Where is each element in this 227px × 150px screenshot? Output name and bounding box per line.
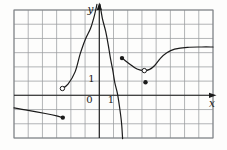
open-point-2 bbox=[142, 68, 146, 72]
open-point-1 bbox=[60, 86, 64, 90]
x-tick-label-1: 1 bbox=[108, 95, 114, 105]
y-axis-label: y bbox=[88, 3, 94, 14]
function-graph-figure: y x 0 1 1 bbox=[0, 0, 227, 150]
graph-canvas bbox=[0, 0, 227, 150]
closed-point-3 bbox=[143, 80, 147, 84]
x-axis-label: x bbox=[209, 98, 215, 109]
y-tick-label-1: 1 bbox=[88, 74, 94, 84]
closed-point-2 bbox=[120, 56, 124, 60]
origin-label: 0 bbox=[86, 95, 92, 105]
closed-point-1 bbox=[61, 115, 65, 119]
